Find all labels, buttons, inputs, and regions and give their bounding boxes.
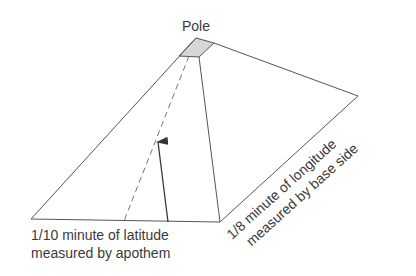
pole-cap: [179, 38, 214, 57]
back-right-edge: [214, 43, 358, 96]
base-front: [31, 219, 220, 222]
latitude-label-line2: measured by apothem: [31, 245, 170, 261]
longitude-label-line1: 1/8 minute of longitude: [223, 135, 339, 242]
front-edge: [199, 57, 220, 222]
pyramid-diagram: Pole 1/10 minute of latitude measured by…: [0, 0, 416, 276]
pole-label: Pole: [182, 18, 210, 34]
pointer-arrow: [158, 142, 168, 222]
left-edge: [31, 38, 196, 219]
latitude-label-line1: 1/10 minute of latitude: [31, 227, 169, 243]
longitude-label-line2: measured by base side: [243, 140, 361, 249]
